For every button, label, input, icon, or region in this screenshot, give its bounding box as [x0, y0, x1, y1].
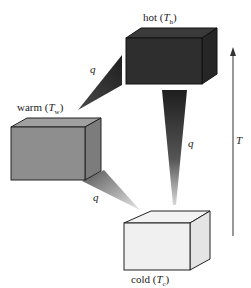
flow-label-warm-cold: q [93, 191, 99, 203]
cold-label: cold (Tc) [131, 273, 169, 288]
warm-reservoir-box [11, 118, 101, 180]
heat-flow-diagram: hot (Th) warm (Tw) cold (Tc) q q q T [0, 0, 251, 288]
warm-label: warm (Tw) [17, 101, 63, 116]
flow-label-hot-warm: q [90, 63, 96, 75]
hot-reservoir-box [126, 28, 217, 84]
axis-label: T [236, 134, 242, 146]
flow-label-hot-cold: q [188, 137, 194, 149]
flow-hot-to-cold [162, 90, 187, 205]
cold-reservoir-box [124, 211, 210, 270]
hot-label: hot (Th) [143, 11, 177, 26]
diagram-graphics [0, 0, 251, 288]
flow-hot-to-warm [78, 55, 122, 110]
